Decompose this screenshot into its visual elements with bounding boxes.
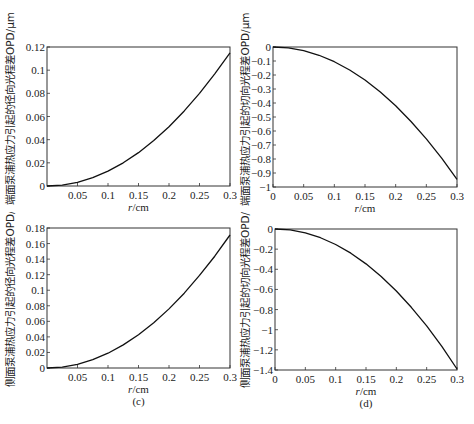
y-tick-label: 0.1 <box>31 284 45 296</box>
y-tick-label: −0.2 <box>253 243 273 255</box>
x-tick-label: 0.3 <box>450 190 464 202</box>
y-tick-label: 0.06 <box>26 111 46 123</box>
x-axis-label: r/cm <box>355 202 376 212</box>
y-tick-label: 0.12 <box>26 269 45 281</box>
plot-frame <box>273 47 457 187</box>
y-tick-label: 0.02 <box>26 346 45 358</box>
y-tick-label: 0.02 <box>26 157 45 169</box>
y-tick-label: 0.04 <box>26 134 46 146</box>
x-tick-label: 0.25 <box>417 373 437 385</box>
panel-caption: (d) <box>360 397 373 410</box>
x-tick-label: 0.3 <box>223 371 237 383</box>
x-tick-label: 0.3 <box>223 189 237 201</box>
x-tick-label: 0.15 <box>129 189 149 201</box>
chart-panel-b: 0−0.1−0.2−0.3−0.4−0.5−0.6−0.7−0.8−0.9−10… <box>237 0 474 212</box>
y-tick-label: 0.08 <box>26 300 46 312</box>
y-tick-label: 0.04 <box>26 331 46 343</box>
chart-c-svg: 00.020.040.060.080.10.120.140.160.180.05… <box>0 212 237 424</box>
x-tick-label: 0.2 <box>389 190 403 202</box>
data-series-line <box>47 53 230 186</box>
x-tick-label: 0.2 <box>389 373 403 385</box>
panel-caption: (c) <box>132 395 145 408</box>
y-tick-label: −0.8 <box>251 153 271 165</box>
y-axis-label: 侧面泵浦热应力引起的径向光程差OPD/μm <box>4 212 16 387</box>
x-tick-label: 0.15 <box>356 373 376 385</box>
plot-frame <box>275 229 457 370</box>
x-tick-label: 0.05 <box>294 190 314 202</box>
x-tick-label: 0.1 <box>101 371 115 383</box>
y-tick-label: 0.16 <box>26 238 46 250</box>
y-tick-label: 0.08 <box>26 87 46 99</box>
x-tick-label: 0.25 <box>190 371 210 383</box>
plot-frame <box>47 47 230 186</box>
y-tick-label: −0.4 <box>251 97 271 109</box>
x-tick-label: 0.15 <box>355 190 375 202</box>
y-tick-label: 0.18 <box>26 222 46 234</box>
x-tick-label: 0 <box>272 373 278 385</box>
y-tick-label: −0.2 <box>251 69 271 81</box>
x-axis-label: r/cm <box>356 385 377 397</box>
x-tick-label: 0.2 <box>162 371 176 383</box>
y-tick-label: −0.8 <box>253 304 273 316</box>
y-tick-label: 0.14 <box>26 253 46 265</box>
data-series-line <box>275 229 457 369</box>
y-tick-label: 0 <box>40 362 46 374</box>
x-tick-label: 0.25 <box>190 189 210 201</box>
y-tick-label: 0 <box>40 180 46 192</box>
x-tick-label: 0.1 <box>101 189 115 201</box>
y-tick-label: −1.4 <box>253 364 273 376</box>
x-tick-label: 0.3 <box>450 373 464 385</box>
chart-b-svg: 0−0.1−0.2−0.3−0.4−0.5−0.6−0.7−0.8−0.9−10… <box>237 0 474 212</box>
y-axis-label: 侧面泵浦热应力引起的切向光程差OPD/μm <box>239 212 251 388</box>
y-tick-label: −0.3 <box>251 83 271 95</box>
x-tick-label: 0.1 <box>329 373 343 385</box>
y-tick-label: −1 <box>259 181 271 193</box>
y-tick-label: 0.12 <box>26 41 45 53</box>
x-tick-label: 0.05 <box>296 373 316 385</box>
chart-a-svg: 00.020.040.060.080.10.120.050.10.150.20.… <box>0 0 237 212</box>
x-axis-label: r/cm <box>128 383 149 395</box>
y-tick-label: 0 <box>268 223 274 235</box>
x-axis-label: r/cm <box>128 201 149 212</box>
y-axis-label: 端面泵浦热应力引起的切向光程差OPD/μm <box>239 12 251 205</box>
x-tick-label: 0.15 <box>129 371 149 383</box>
y-tick-label: −0.4 <box>253 263 273 275</box>
y-tick-label: −1 <box>261 324 273 336</box>
y-tick-label: −1.2 <box>253 344 273 356</box>
x-tick-label: 0.25 <box>417 190 437 202</box>
y-tick-label: 0 <box>266 41 272 53</box>
y-tick-label: −0.1 <box>251 55 271 67</box>
chart-panel-a: 00.020.040.060.080.10.120.050.10.150.20.… <box>0 0 237 212</box>
x-tick-label: 0.05 <box>68 371 88 383</box>
plot-frame <box>47 228 230 368</box>
x-tick-label: 0 <box>270 190 276 202</box>
x-tick-label: 0.1 <box>327 190 341 202</box>
y-tick-label: 0.06 <box>26 315 46 327</box>
chart-panel-d: 0−0.2−0.4−0.6−0.8−1−1.2−1.400.050.10.150… <box>237 212 474 424</box>
chart-d-svg: 0−0.2−0.4−0.6−0.8−1−1.2−1.400.050.10.150… <box>237 212 474 424</box>
x-tick-label: 0.05 <box>68 189 88 201</box>
data-series-line <box>47 235 230 368</box>
y-tick-label: −0.9 <box>251 167 271 179</box>
y-tick-label: 0.1 <box>31 64 45 76</box>
y-tick-label: −0.6 <box>251 125 271 137</box>
y-tick-label: −0.7 <box>251 139 271 151</box>
y-tick-label: −0.5 <box>251 111 271 123</box>
chart-panel-c: 00.020.040.060.080.10.120.140.160.180.05… <box>0 212 237 424</box>
x-tick-label: 0.2 <box>162 189 176 201</box>
data-series-line <box>273 47 457 179</box>
y-tick-label: −0.6 <box>253 283 273 295</box>
y-axis-label: 端面泵浦热应力引起的径向光程差OPD/μm <box>4 12 16 205</box>
